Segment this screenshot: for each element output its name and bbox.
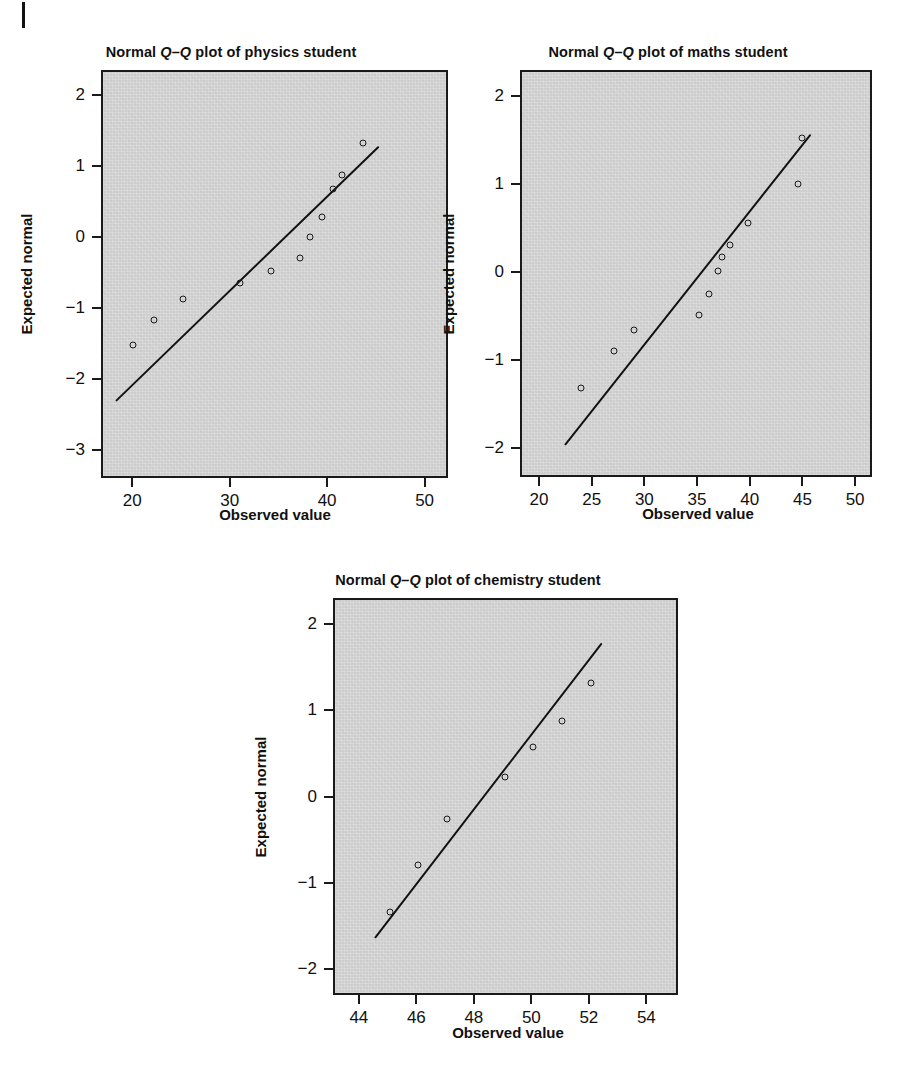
x-tick-label: 54	[637, 1008, 656, 1028]
data-point	[330, 186, 337, 193]
y-tick-label: −2	[485, 438, 504, 458]
chart-title-pre: Normal	[106, 44, 161, 60]
y-tick-mark	[511, 447, 520, 449]
data-point	[795, 180, 802, 187]
data-point	[360, 139, 367, 146]
chart-title-qq: Q–Q	[160, 44, 191, 60]
y-tick-label: 0	[495, 262, 504, 282]
y-axis-label-maths: Expected normal	[440, 214, 457, 335]
data-point	[150, 317, 157, 324]
x-tick-label: 50	[522, 1008, 541, 1028]
data-point	[715, 267, 722, 274]
data-point	[444, 816, 451, 823]
page-margin-mark	[22, 2, 25, 28]
chart-title-post: plot of chemistry student	[421, 572, 601, 588]
data-point	[296, 254, 303, 261]
y-tick-mark	[324, 623, 333, 625]
y-tick-label: 2	[495, 86, 504, 106]
data-point	[705, 290, 712, 297]
y-tick-label: −1	[485, 350, 504, 370]
y-tick-label: 0	[308, 787, 317, 807]
y-tick-label: 2	[76, 85, 85, 105]
chart-title-qq: Q–Q	[390, 572, 421, 588]
y-tick-mark	[92, 378, 101, 380]
chart-title-pre: Normal	[548, 44, 603, 60]
y-tick-mark	[324, 968, 333, 970]
x-tick-mark	[538, 477, 540, 486]
data-point	[559, 717, 566, 724]
panel-texture	[103, 72, 446, 476]
y-tick-mark	[511, 183, 520, 185]
x-tick-mark	[854, 477, 856, 486]
chart-title-post: plot of maths student	[634, 44, 788, 60]
chart-title-maths: Normal Q–Q plot of maths student	[448, 44, 888, 60]
data-point	[726, 242, 733, 249]
x-tick-mark	[530, 995, 532, 1004]
x-tick-label: 30	[220, 491, 239, 511]
data-point	[530, 743, 537, 750]
y-tick-label: 1	[495, 174, 504, 194]
x-tick-mark	[326, 478, 328, 487]
y-tick-label: −2	[66, 369, 85, 389]
chart-title-qq: Q–Q	[603, 44, 634, 60]
y-tick-label: 1	[308, 700, 317, 720]
x-tick-mark	[358, 995, 360, 1004]
y-axis-label-physics: Expected normal	[18, 214, 35, 335]
data-point	[610, 347, 617, 354]
y-tick-mark	[511, 95, 520, 97]
x-tick-label: 50	[415, 491, 434, 511]
x-tick-label: 25	[582, 490, 601, 510]
x-tick-mark	[643, 477, 645, 486]
data-point	[587, 679, 594, 686]
chart-title-chemistry: Normal Q–Q plot of chemistry student	[218, 572, 718, 588]
qq-plot-chemistry: Normal Q–Q plot of chemistry student Exp…	[218, 572, 718, 1072]
chart-title-pre: Normal	[335, 572, 390, 588]
panel-texture	[522, 72, 870, 475]
data-point	[179, 296, 186, 303]
x-tick-mark	[696, 477, 698, 486]
y-tick-mark	[511, 271, 520, 273]
data-point	[415, 861, 422, 868]
y-tick-mark	[324, 709, 333, 711]
chart-title-post: plot of physics student	[191, 44, 356, 60]
y-tick-label: −1	[66, 298, 85, 318]
qq-plot-maths: Normal Q–Q plot of maths student Expecte…	[448, 44, 910, 524]
x-tick-mark	[588, 995, 590, 1004]
y-tick-mark	[92, 165, 101, 167]
x-tick-label: 40	[740, 490, 759, 510]
data-point	[501, 773, 508, 780]
y-tick-label: −3	[66, 440, 85, 460]
x-tick-mark	[591, 477, 593, 486]
x-tick-label: 30	[635, 490, 654, 510]
x-tick-label: 45	[793, 490, 812, 510]
panel-texture	[335, 600, 676, 993]
x-tick-mark	[801, 477, 803, 486]
y-tick-mark	[511, 359, 520, 361]
plot-area-chemistry	[333, 598, 678, 995]
y-tick-label: 0	[76, 227, 85, 247]
x-tick-label: 40	[318, 491, 337, 511]
x-tick-label: 44	[349, 1008, 368, 1028]
x-tick-mark	[424, 478, 426, 487]
plot-area-physics	[101, 70, 448, 478]
data-point	[744, 220, 751, 227]
reference-fit-line	[374, 642, 603, 939]
x-tick-mark	[131, 478, 133, 487]
data-point	[696, 311, 703, 318]
x-tick-label: 46	[407, 1008, 426, 1028]
reference-fit-line	[564, 134, 811, 446]
y-tick-mark	[324, 796, 333, 798]
data-point	[719, 253, 726, 260]
x-tick-label: 20	[123, 491, 142, 511]
y-tick-mark	[324, 882, 333, 884]
x-tick-mark	[645, 995, 647, 1004]
qq-plot-physics: Normal Q–Q plot of physics student Expec…	[0, 44, 462, 524]
chart-title-physics: Normal Q–Q plot of physics student	[0, 44, 462, 60]
x-tick-mark	[415, 995, 417, 1004]
data-point	[237, 280, 244, 287]
x-tick-mark	[473, 995, 475, 1004]
y-tick-mark	[92, 307, 101, 309]
figure-page: Normal Q–Q plot of physics student Expec…	[0, 0, 910, 1089]
data-point	[386, 909, 393, 916]
data-point	[130, 342, 137, 349]
